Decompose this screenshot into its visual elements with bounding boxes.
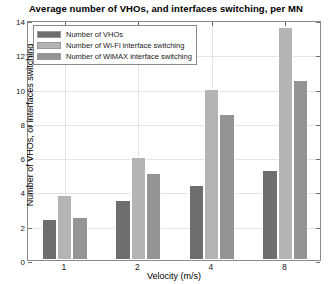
bar: [72, 217, 87, 260]
y-tick-label: 4: [1, 189, 25, 198]
y-tick-label: 2: [1, 223, 25, 232]
chart-legend: Number of VHOsNumber of Wi-Fi interface …: [33, 25, 197, 65]
legend-label: Number of WiMAX interface switching: [66, 52, 192, 61]
bar: [219, 114, 234, 260]
y-tick-label: 12: [1, 52, 25, 61]
y-tick-label: 6: [1, 155, 25, 164]
legend-item: Number of VHOs: [37, 29, 192, 39]
bar: [57, 195, 72, 260]
bar: [42, 219, 57, 260]
x-axis-title: Velocity (m/s): [27, 271, 321, 281]
chart-title: Average number of VHOs, and interfaces s…: [0, 3, 332, 14]
y-tick-label: 14: [1, 18, 25, 27]
legend-swatch: [37, 42, 61, 49]
chart-figure: Average number of VHOs, and interfaces s…: [0, 0, 332, 284]
y-axis-tick-labels: 02468101214: [0, 21, 25, 261]
bar: [262, 170, 277, 260]
legend-label: Number of VHOs: [66, 30, 123, 39]
legend-item: Number of WiMAX interface switching: [37, 51, 192, 61]
legend-label: Number of Wi-Fi interface switching: [66, 41, 184, 50]
bar: [115, 200, 130, 260]
y-tick-label: 10: [1, 86, 25, 95]
bar: [189, 185, 204, 260]
bar: [146, 173, 161, 260]
y-tick-label: 8: [1, 120, 25, 129]
bar: [293, 80, 308, 260]
bar: [131, 157, 146, 260]
y-tick-label: 0: [1, 258, 25, 267]
legend-swatch: [37, 53, 61, 60]
bar: [204, 89, 219, 260]
bar: [278, 27, 293, 260]
legend-item: Number of Wi-Fi interface switching: [37, 40, 192, 50]
legend-swatch: [37, 31, 61, 38]
